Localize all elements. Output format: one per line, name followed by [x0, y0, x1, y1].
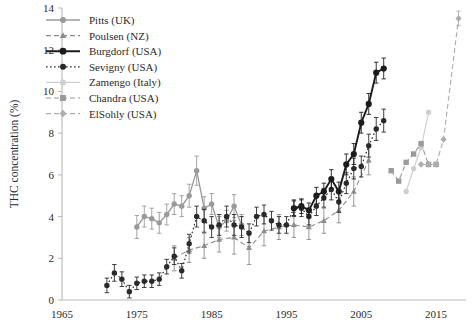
y-tick-label: 6: [49, 169, 55, 181]
legend-label: Sevigny (USA): [89, 61, 157, 74]
legend-item-pitts-uk[interactable]: Pitts (UK): [46, 14, 135, 27]
series-elsohly-usa: [418, 11, 462, 168]
x-tick-label: 1985: [201, 308, 224, 320]
series-zamengo-italy: [403, 110, 431, 195]
legend-label: ElSohly (USA): [89, 108, 157, 121]
y-tick-label: 0: [49, 294, 55, 306]
legend: Pitts (UK)Poulsen (NZ)Burgdorf (USA)Sevi…: [46, 14, 162, 121]
axes-group: 02468101214196519751985199520052015THC c…: [8, 2, 466, 320]
series-poulsen-nz: [171, 146, 371, 271]
y-tick-label: 12: [43, 44, 54, 56]
legend-item-burgdorf-usa[interactable]: Burgdorf (USA): [46, 45, 162, 58]
legend-label: Chandra (USA): [89, 92, 159, 105]
x-tick-label: 1975: [126, 308, 149, 320]
x-tick-label: 1965: [51, 308, 74, 320]
y-tick-label: 8: [49, 127, 55, 139]
thc-concentration-chart: 02468101214196519751985199520052015THC c…: [0, 0, 474, 330]
legend-item-poulsen-nz[interactable]: Poulsen (NZ): [46, 30, 149, 43]
legend-label: Poulsen (NZ): [89, 30, 149, 43]
y-axis-title: THC concentration (%): [8, 100, 21, 209]
legend-label: Burgdorf (USA): [89, 45, 162, 58]
legend-label: Zamengo (Italy): [89, 76, 161, 89]
legend-item-sevigny-usa[interactable]: Sevigny (USA): [46, 61, 157, 74]
series-chandra-usa: [388, 141, 438, 184]
legend-item-elsohly-usa[interactable]: ElSohly (USA): [46, 108, 157, 121]
x-tick-label: 2015: [425, 308, 448, 320]
series-pitts-uk: [134, 156, 244, 238]
legend-label: Pitts (UK): [89, 14, 135, 27]
y-tick-label: 4: [49, 211, 55, 223]
y-tick-label: 10: [43, 85, 55, 97]
y-tick-label: 2: [49, 252, 55, 264]
legend-item-zamengo-italy[interactable]: Zamengo (Italy): [46, 76, 161, 89]
chart-canvas: 02468101214196519751985199520052015THC c…: [0, 0, 474, 330]
x-tick-label: 2005: [350, 308, 373, 320]
x-tick-label: 1995: [275, 308, 298, 320]
legend-item-chandra-usa[interactable]: Chandra (USA): [46, 92, 159, 105]
y-tick-label: 14: [43, 2, 55, 14]
